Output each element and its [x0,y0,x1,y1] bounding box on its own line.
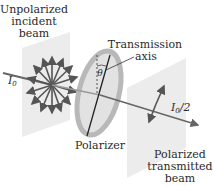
polarizer-diagram: Unpolarized incident beam I0 Transmissio… [0,0,213,186]
angle-theta-label: θ [97,68,103,78]
polarizer-label: Polarizer [75,139,126,152]
incident-label-line3: beam [19,27,50,40]
axis-label-line2: axis [135,50,157,63]
diagram-svg: Unpolarized incident beam I0 Transmissio… [0,0,213,186]
transmitted-label-line3: beam [165,172,196,185]
intensity-out-label: I0/2 [170,101,191,115]
